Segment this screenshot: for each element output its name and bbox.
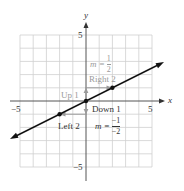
x-axis-arrow-icon — [159, 99, 165, 104]
slope-1-denominator: 2 — [107, 66, 111, 74]
x-axis-label: x — [168, 96, 172, 105]
point-neg2-neg1 — [57, 112, 61, 116]
left-label: Left 2 — [58, 122, 80, 131]
line-arrow-end-icon — [156, 62, 165, 68]
y-axis-label: y — [84, 11, 88, 20]
slope-label-2: m = −1 −2 — [95, 117, 120, 136]
slope-1-prefix: m = — [90, 60, 105, 69]
slope-2-denominator: −2 — [112, 128, 121, 136]
point-2-1 — [110, 86, 114, 90]
point-origin — [84, 99, 88, 103]
y-tick-neg5: −5 — [73, 163, 83, 172]
slope-1-fraction: 1 2 — [107, 55, 111, 74]
y-axis-arrow-icon — [84, 22, 89, 28]
slope-1-numerator: 1 — [107, 55, 111, 63]
slope-2-numerator: −1 — [112, 117, 121, 125]
slope-2-prefix: m = — [95, 122, 110, 131]
down-arrow-icon — [84, 109, 89, 114]
slope-label-1: m = 1 2 — [90, 55, 111, 74]
y-tick-5: 5 — [78, 31, 83, 40]
up-label: Up 1 — [61, 91, 79, 100]
x-tick-neg5: −5 — [11, 105, 21, 114]
down-label: Down 1 — [92, 105, 121, 114]
right-label: Right 2 — [89, 75, 116, 84]
slope-2-fraction: −1 −2 — [112, 117, 121, 136]
line-arrow-start-icon — [10, 133, 19, 139]
up-arrow-icon — [84, 88, 89, 93]
x-tick-5: 5 — [148, 105, 153, 114]
coordinate-plane — [0, 0, 184, 191]
